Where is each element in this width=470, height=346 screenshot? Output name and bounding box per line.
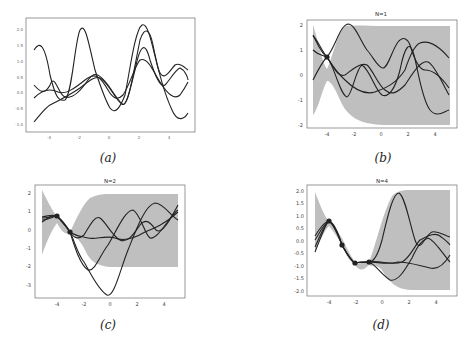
- x-tick: 0: [108, 301, 111, 307]
- y-tick: -2: [26, 263, 31, 269]
- x-tick: -2: [352, 131, 357, 137]
- x-tick: -4: [325, 131, 330, 137]
- x-tick: -4: [327, 299, 332, 305]
- x-axis-ticks: -4 -2 0 2 4: [55, 301, 166, 307]
- observation-point: [366, 259, 371, 264]
- y-tick: -1: [26, 245, 31, 251]
- x-tick: 2: [138, 135, 141, 140]
- y-tick: -2.0: [294, 288, 304, 294]
- x-tick: 4: [168, 135, 171, 140]
- observation-point: [339, 242, 344, 247]
- x-tick: 0: [108, 135, 111, 140]
- y-axis-ticks: 2 1 0 -1 -2 -3: [26, 190, 31, 288]
- sample-curve: [34, 31, 188, 122]
- y-axis-ticks: 2.0 1.5 1.0 0.5 0.0 -0.5 -1.0 -1.5 -2.0: [294, 188, 304, 294]
- y-tick: -0.5: [15, 106, 23, 111]
- y-tick: 1.5: [17, 43, 24, 48]
- y-tick: 2.0: [296, 188, 304, 194]
- x-tick: 4: [433, 131, 436, 137]
- x-axis-ticks: -4 -2 0 2 4: [327, 299, 438, 305]
- x-tick: -2: [354, 299, 359, 305]
- panel-title: N=1: [375, 11, 387, 17]
- y-tick: -0.5: [294, 250, 304, 256]
- y-tick: 2.0: [17, 27, 24, 32]
- y-tick: 1.0: [17, 59, 24, 64]
- y-tick: -1.5: [294, 275, 304, 281]
- caption: (d): [372, 318, 389, 332]
- confidence-band: [42, 190, 178, 267]
- sample-curves: [34, 25, 188, 122]
- y-tick: 0.5: [296, 225, 304, 231]
- y-tick: 1.5: [296, 200, 304, 206]
- figure: 2.0 1.5 1.0 0.5 0.0 -0.5 -1.0 -4 -2 0 2 …: [0, 0, 470, 346]
- y-tick: 1: [300, 47, 303, 53]
- x-tick: 4: [434, 299, 437, 305]
- y-tick: 0.0: [296, 238, 304, 244]
- x-tick: 0: [380, 299, 383, 305]
- x-axis-ticks: -4 -2 0 2 4: [325, 131, 437, 137]
- y-tick: -2: [298, 122, 303, 128]
- y-tick: -1.0: [294, 263, 304, 269]
- axes-frame: [26, 18, 195, 132]
- y-tick: 2: [300, 22, 303, 28]
- caption: (b): [374, 151, 391, 165]
- x-tick: -2: [77, 135, 81, 140]
- y-tick: -1.0: [15, 122, 23, 127]
- panel-d: N=4 2.0 1.5 1.0 0.5 0.0 -0.5 -1.0 -1.5 -…: [294, 178, 457, 332]
- sample-curve: [34, 25, 188, 111]
- y-tick: -1: [298, 97, 303, 103]
- panel-title: N=2: [104, 178, 116, 184]
- x-axis-ticks: -4 -2 0 2 4: [47, 135, 171, 140]
- y-tick: -3: [26, 282, 31, 288]
- y-tick: 1.0: [296, 213, 304, 219]
- observation-point: [54, 213, 59, 218]
- x-tick: -4: [55, 301, 60, 307]
- y-tick: 0.5: [17, 75, 24, 80]
- x-tick: 4: [162, 301, 165, 307]
- x-tick: -2: [82, 301, 87, 307]
- x-tick: 2: [407, 299, 410, 305]
- x-tick: -4: [47, 135, 51, 140]
- x-tick: 0: [379, 131, 382, 137]
- y-tick: 1: [28, 208, 31, 214]
- caption: (a): [100, 151, 117, 165]
- observation-point: [352, 260, 357, 265]
- observation-point: [326, 218, 331, 223]
- y-axis-ticks: 2 1 0 -1 -2: [298, 22, 303, 128]
- y-axis-ticks: 2.0 1.5 1.0 0.5 0.0 -0.5 -1.0: [15, 27, 23, 127]
- y-tick: 0: [300, 72, 303, 78]
- x-tick: 2: [406, 131, 409, 137]
- y-tick: 0.0: [17, 90, 24, 95]
- caption: (c): [100, 318, 116, 332]
- panel-c: N=2 2 1 0 -1 -2 -3 -4 -2 0 2 4 (c): [26, 178, 185, 332]
- panel-b: N=1 2 1 0 -1 -2 -4 -2 0 2 4 (b): [298, 11, 457, 165]
- y-tick: 2: [28, 190, 31, 196]
- observation-point: [324, 54, 329, 59]
- x-tick: 2: [135, 301, 138, 307]
- y-tick: 0: [28, 227, 31, 233]
- panel-a: 2.0 1.5 1.0 0.5 0.0 -0.5 -1.0 -4 -2 0 2 …: [15, 18, 195, 165]
- observation-point: [67, 229, 72, 234]
- panel-title: N=4: [376, 178, 389, 184]
